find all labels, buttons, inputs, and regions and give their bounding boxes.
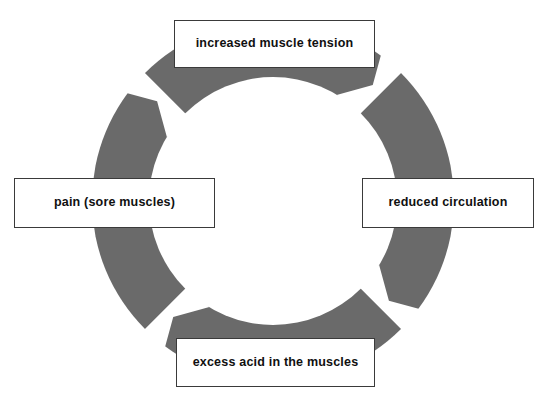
node-label: reduced circulation [388, 196, 507, 210]
node-label: increased muscle tension [196, 37, 354, 51]
node-pain-sore-muscles: pain (sore muscles) [14, 178, 215, 228]
node-label: pain (sore muscles) [54, 196, 175, 210]
cycle-diagram: increased muscle tension reduced circula… [0, 0, 547, 406]
node-label: excess acid in the muscles [193, 356, 359, 370]
node-excess-acid-in-the-muscles: excess acid in the muscles [176, 338, 375, 387]
node-increased-muscle-tension: increased muscle tension [174, 20, 375, 68]
node-reduced-circulation: reduced circulation [362, 178, 534, 228]
